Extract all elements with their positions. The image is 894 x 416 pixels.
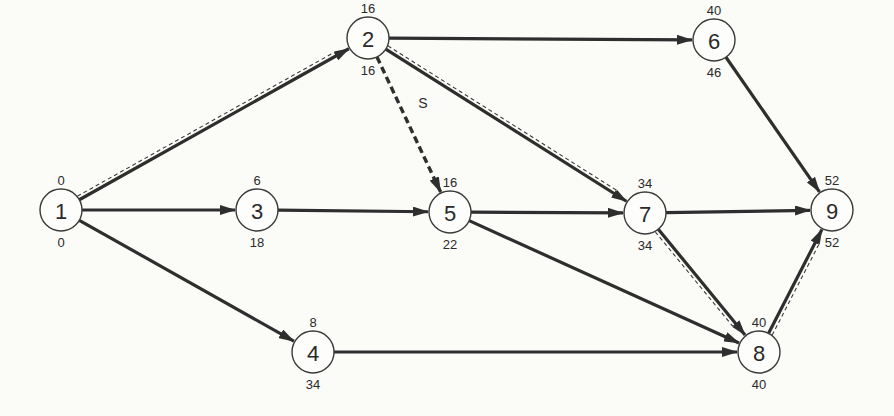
node-label: 9 [826,199,838,224]
edge-7-8 [655,229,745,335]
earliest-time-label: 52 [825,173,839,188]
earliest-time-label: 16 [361,1,375,16]
edge-3-5 [278,210,428,212]
earliest-time-label: 34 [638,176,652,191]
latest-time-label: 0 [57,235,64,250]
latest-time-label: 52 [825,235,839,250]
node-2: 21616 [347,1,389,78]
node-6: 64046 [693,3,735,80]
edge-label: S [418,95,427,111]
nodes-layer: 1002161636184834516226404673434840409525… [40,1,853,392]
network-diagram: S 10021616361848345162264046734348404095… [0,0,894,416]
edge-2-6 [389,38,692,40]
edge-1-2 [77,49,348,200]
latest-time-label: 40 [752,377,766,392]
critical-path-marker [772,244,819,335]
edge-8-9 [769,230,822,336]
latest-time-label: 16 [361,63,375,78]
node-5: 51622 [429,175,471,252]
node-label: 3 [251,199,263,224]
earliest-time-label: 6 [253,173,260,188]
earliest-time-label: 0 [57,173,64,188]
earliest-time-label: 40 [707,3,721,18]
node-label: 4 [307,341,319,366]
node-label: 2 [362,27,374,52]
node-label: 6 [708,29,720,54]
edge-7-9 [666,210,810,212]
node-7: 73434 [624,176,666,253]
latest-time-label: 46 [707,65,721,80]
node-1: 100 [40,173,82,250]
node-label: 5 [444,201,456,226]
node-4: 4834 [292,315,334,392]
earliest-time-label: 16 [443,175,457,190]
latest-time-label: 22 [443,237,457,252]
earliest-time-label: 40 [752,315,766,330]
edge-6-9 [726,57,819,192]
node-label: 7 [639,202,651,227]
latest-time-label: 34 [306,377,320,392]
edge-2-7 [386,46,627,201]
latest-time-label: 34 [638,238,652,253]
node-label: 1 [55,199,67,224]
edge-5-7 [471,212,623,213]
node-label: 8 [753,341,765,366]
earliest-time-label: 8 [309,315,316,330]
latest-time-label: 18 [250,235,264,250]
node-3: 3618 [236,173,278,250]
edge-5-8 [469,221,739,343]
